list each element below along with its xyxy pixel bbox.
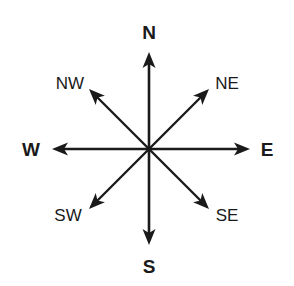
east-arrow-icon: [149, 143, 250, 156]
label-southeast: SE: [216, 207, 239, 224]
label-north: N: [142, 23, 156, 42]
label-southwest: SW: [54, 207, 81, 224]
west-arrow-icon: [52, 143, 149, 156]
north-arrow-icon: [143, 52, 156, 149]
northeast-arrow-icon: [149, 89, 209, 149]
northwest-arrow-icon: [89, 89, 149, 149]
south-arrow-icon: [143, 149, 156, 245]
label-west: W: [22, 140, 40, 159]
label-northeast: NE: [215, 75, 239, 92]
compass-rose-arrows: [0, 0, 294, 286]
southeast-arrow-icon: [149, 149, 209, 209]
label-east: E: [261, 140, 274, 159]
southwest-arrow-icon: [89, 149, 149, 209]
label-south: S: [143, 257, 156, 276]
label-northwest: NW: [56, 75, 84, 92]
